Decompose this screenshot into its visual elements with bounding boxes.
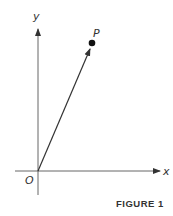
point-label: P bbox=[93, 27, 100, 40]
origin-label: O bbox=[25, 174, 34, 187]
figure-canvas: y P x O FIGURE 1 bbox=[0, 0, 173, 216]
x-axis-label: x bbox=[162, 165, 170, 178]
vector-op bbox=[38, 49, 90, 171]
point-p bbox=[89, 40, 96, 47]
vector-diagram: y P x O FIGURE 1 bbox=[0, 0, 173, 216]
y-axis-label: y bbox=[32, 10, 40, 23]
figure-caption: FIGURE 1 bbox=[116, 198, 164, 209]
